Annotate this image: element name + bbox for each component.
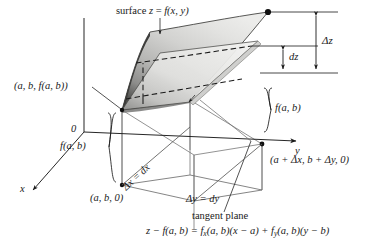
surface-function: f(x, y)	[164, 5, 188, 16]
far-base-point-label: (a + Δx, b + Δy, 0)	[270, 155, 349, 166]
brace-right-path	[264, 88, 272, 132]
height-f-ab-right-label: f(a, b)	[275, 103, 301, 114]
equation-head: z − f(a, b) = f	[146, 225, 203, 236]
equation-tail: (a, b)(y − b)	[277, 225, 329, 236]
tangent-plane-label: tangent plane	[192, 211, 248, 222]
delta-z-label: Δz	[322, 35, 333, 46]
surface-equals: =	[156, 5, 162, 16]
brace-f-ab-right	[264, 88, 272, 132]
leader-tangent-plane	[224, 141, 251, 212]
dot-near-vertex	[120, 108, 124, 112]
height-f-ab-left-label: f(a, b)	[60, 141, 86, 152]
axis-x-label: x	[20, 184, 25, 195]
delta-y-label: Δy = dy	[186, 194, 219, 205]
surface-word: surface	[116, 5, 146, 16]
tangent-plane-equation: z − f(a, b) = fx(a, b)(x − a) + fy(a, b)…	[146, 226, 329, 237]
dz-label: dz	[289, 52, 298, 63]
surface-equation-label: surface z = f(x, y)	[116, 6, 189, 17]
brace-left-path	[108, 113, 116, 182]
tangent-plane-figure: surface z = f(x, y) (a, b, f(a, b)) 0 Δz…	[0, 0, 387, 242]
brace-f-ab-left	[108, 113, 116, 182]
leader-plane-edge	[200, 100, 251, 141]
leader-point-label	[92, 87, 121, 109]
equation-middle: (a, b)(x − a) + f	[207, 225, 274, 236]
point-on-surface-label: (a, b, f(a, b))	[14, 81, 68, 92]
origin-label: 0	[71, 124, 76, 135]
base-point-label: (a, b, 0)	[90, 193, 123, 204]
surface-var-z: z	[149, 5, 153, 16]
point-dot-on-surface	[265, 9, 271, 15]
